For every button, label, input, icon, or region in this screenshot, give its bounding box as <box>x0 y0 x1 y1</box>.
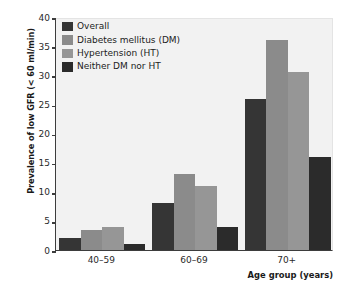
x-axis-tick-label: 60–69 <box>154 255 234 265</box>
y-axis-tick-label: 0 <box>44 246 50 256</box>
y-axis-tick-label: 40 <box>39 13 50 23</box>
bar <box>195 186 217 250</box>
legend-label: Hypertension (HT) <box>77 49 159 58</box>
legend-swatch <box>62 49 73 59</box>
legend-item: Diabetes mellitus (DM) <box>62 33 180 46</box>
legend-item: Hypertension (HT) <box>62 47 180 60</box>
bar <box>81 230 103 250</box>
y-axis-tick-label: 35 <box>39 42 50 52</box>
y-axis-tick-mark <box>52 251 56 253</box>
bar <box>102 227 124 250</box>
y-axis-tick-label: 20 <box>39 129 50 139</box>
x-axis-title: Age group (years) <box>248 270 333 280</box>
y-axis-tick-label: 15 <box>39 158 50 168</box>
chart-legend: OverallDiabetes mellitus (DM)Hypertensio… <box>62 20 180 74</box>
legend-label: Neither DM nor HT <box>77 62 161 71</box>
legend-swatch <box>62 62 73 72</box>
legend-label: Diabetes mellitus (DM) <box>77 36 180 45</box>
y-axis-tick-label: 5 <box>44 216 50 226</box>
x-axis-tick-label: 40–59 <box>61 255 141 265</box>
legend-label: Overall <box>77 22 109 31</box>
legend-swatch <box>62 22 73 32</box>
bar <box>174 174 196 250</box>
bar <box>59 238 81 250</box>
legend-swatch <box>62 35 73 45</box>
y-axis-tick-label: 10 <box>39 187 50 197</box>
chart-figure: Prevalence of low GFR (< 60 ml/min) 0510… <box>0 0 340 290</box>
x-axis-tick-label: 70+ <box>247 255 327 265</box>
legend-item: Neither DM nor HT <box>62 60 180 73</box>
legend-item: Overall <box>62 20 180 33</box>
bar <box>266 40 288 250</box>
bar <box>309 157 331 250</box>
bar <box>152 203 174 250</box>
y-axis-title: Prevalence of low GFR (< 60 ml/min) <box>26 0 36 226</box>
bar <box>288 72 310 250</box>
bar-group <box>245 19 331 250</box>
y-axis-tick-label: 30 <box>39 71 50 81</box>
y-axis-tick-label: 25 <box>39 100 50 110</box>
bar <box>124 244 146 250</box>
bar <box>217 227 239 250</box>
bar <box>245 99 267 250</box>
